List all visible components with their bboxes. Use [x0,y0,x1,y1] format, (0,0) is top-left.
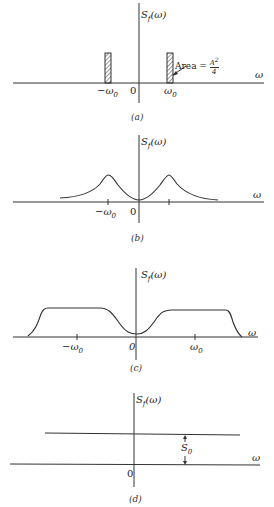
arrowhead-up-icon [183,435,187,439]
panel-c-ylabel: Sf(ω) [141,270,166,283]
panel-c-tick-neg-label: −ω0 [62,342,83,355]
panel-a-plot [13,3,264,103]
panel-b-tick-zero-label: 0 [130,207,136,217]
panel-c-curve [28,308,242,337]
panel-c-caption: (c) [130,363,142,373]
panel-a-caption: (a) [131,112,143,122]
panel-c-plot [13,268,258,360]
panel-d-caption: (d) [129,494,142,504]
panel-b-ylabel: Sf(ω) [141,137,166,150]
panel-a-tick-zero-label: 0 [130,86,136,96]
panel-c-tick-zero-label: 0 [129,342,135,352]
panel-d-xlabel: ω [252,453,260,463]
panel-b-xlabel: ω [253,190,261,200]
panel-a-tick-neg-label: −ω0 [97,86,118,99]
panel-d-x-axis [10,464,260,465]
panel-a-impulse-neg [105,53,111,83]
panel-b-tick-neg-label: −ω0 [95,207,116,220]
panel-a-tick-pos-label: ω0 [164,86,177,99]
panel-a-ylabel: Sf(ω) [141,10,166,23]
panel-a-area-annotation: Area = A2 4 [175,56,219,76]
panel-d-tick-zero-label: 0 [127,469,133,479]
panel-a-xlabel: ω [255,70,263,80]
panel-d-plot [10,393,260,487]
panel-b-plot [13,135,264,223]
figure-canvas [0,0,274,507]
panel-c-xlabel: ω [248,328,256,338]
panel-a-impulse-pos [167,53,173,83]
panel-d-s0-label: S0 [181,443,192,456]
panel-b-caption: (b) [131,233,144,243]
panel-d-ylabel: Sf(ω) [136,395,161,408]
panel-c-tick-pos-label: ω0 [190,342,203,355]
panel-d-constant-line [45,433,240,435]
